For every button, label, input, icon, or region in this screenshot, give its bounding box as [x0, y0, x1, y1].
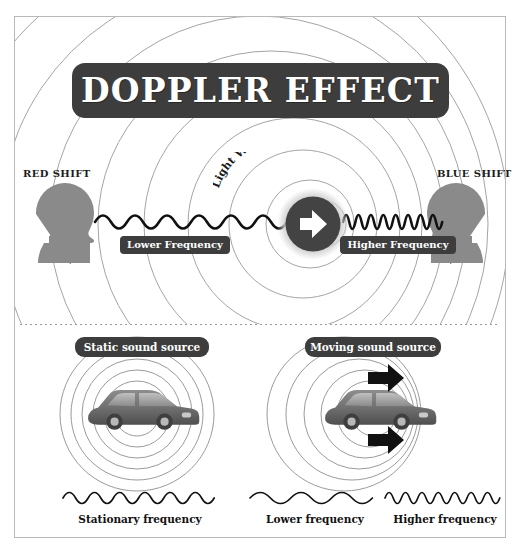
caption-lower-frequency: Lower frequency: [255, 513, 375, 525]
head-silhouette-icon-left: [36, 183, 94, 264]
caption-stationary-frequency: Stationary frequency: [55, 513, 225, 525]
waveform-higher-frequency-light: [343, 215, 442, 229]
badge-higher-frequency: Higher Frequency: [340, 236, 456, 254]
car-icon-moving: [325, 390, 436, 430]
car-icon-static: [88, 390, 199, 430]
light-waves-label-text: Light Waves: [213, 152, 273, 190]
light-source-node: [277, 188, 349, 260]
badge-lower-frequency: Lower Frequency: [120, 236, 230, 254]
blue-shift-label: BLUE SHIFT: [437, 168, 512, 179]
waveform-lower-frequency-light: [95, 216, 287, 229]
caption-higher-frequency: Higher frequency: [385, 513, 505, 525]
waveform-lower-frequency-sound: [250, 493, 372, 504]
badge-static-sound-source: Static sound source: [75, 337, 209, 357]
page-title: DOPPLER EFFECT: [81, 74, 440, 107]
doppler-effect-poster: Light Waves DOPPLER EFFECT RED SHIFT BLU…: [0, 0, 521, 554]
waveform-higher-frequency-sound: [385, 493, 500, 504]
light-waves-curved-label: Light Waves: [213, 152, 343, 198]
waveform-stationary-frequency: [63, 493, 214, 504]
badge-moving-sound-source: Moving sound source: [305, 337, 441, 357]
red-shift-label: RED SHIFT: [23, 168, 91, 179]
arrow-right-icon-top: [368, 364, 404, 392]
poster-title-banner: DOPPLER EFFECT: [72, 63, 449, 118]
